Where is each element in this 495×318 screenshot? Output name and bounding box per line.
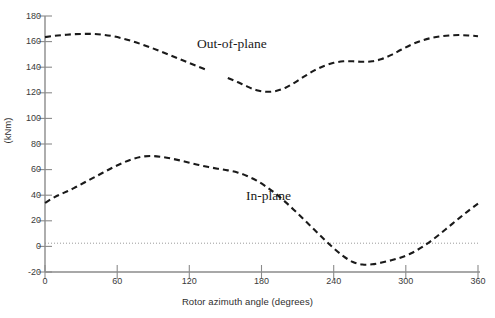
- y-axis-tick-labels: -20020406080100120140160180: [0, 0, 41, 318]
- series-line-in-plane: [45, 156, 478, 265]
- y-axis-title: (kNm): [2, 111, 13, 151]
- y-tick-label: 160: [26, 37, 41, 46]
- y-tick-label: 0: [36, 242, 41, 251]
- y-tick-label: 20: [31, 216, 41, 225]
- x-axis-tick-labels: 060120180240300360: [0, 277, 495, 291]
- series-line-out-of-plane: [45, 34, 209, 71]
- x-tick-label: 240: [326, 277, 341, 286]
- y-tick-label: 120: [26, 88, 41, 97]
- x-tick-label: 180: [254, 277, 269, 286]
- axis-lines: [45, 16, 480, 272]
- y-tick-label: 100: [26, 114, 41, 123]
- x-tick-label: 60: [112, 277, 122, 286]
- x-tick-label: 360: [470, 277, 485, 286]
- series-label-in-plane: In-plane: [246, 188, 291, 204]
- x-tick-label: 300: [398, 277, 413, 286]
- y-tick-label: 40: [31, 191, 41, 200]
- series-layer: [45, 34, 478, 265]
- x-axis-title: Rotor azimuth angle (degrees): [0, 296, 495, 307]
- chart-figure: -20020406080100120140160180 060120180240…: [0, 0, 495, 318]
- y-tick-label: -20: [28, 268, 41, 277]
- y-tick-label: 60: [31, 165, 41, 174]
- y-tick-label: 80: [31, 140, 41, 149]
- x-tick-label: 120: [182, 277, 197, 286]
- x-tick-label: 0: [42, 277, 47, 286]
- y-tick-label: 140: [26, 63, 41, 72]
- series-label-out-of-plane: Out-of-plane: [197, 36, 267, 52]
- y-tick-label: 180: [26, 12, 41, 21]
